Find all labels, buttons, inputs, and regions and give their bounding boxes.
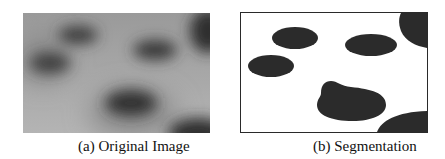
caption-segmentation: (b) Segmentation: [313, 138, 417, 155]
original-image-graphic: [23, 13, 210, 133]
caption-original-image: (a) Original Image: [78, 138, 190, 155]
original-image: [23, 13, 210, 133]
segmentation-graphic: [241, 13, 427, 132]
segmentation-image: [240, 12, 428, 133]
